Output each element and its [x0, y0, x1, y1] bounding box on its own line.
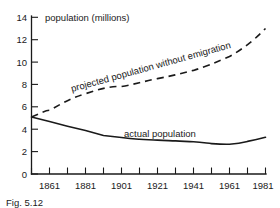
- y-tick-label-10: 10: [16, 57, 27, 68]
- y-tick-label-2: 2: [22, 146, 27, 157]
- x-tick-label-1881: 1881: [75, 180, 96, 191]
- x-tick-label-1981: 1981: [252, 180, 273, 191]
- figure-caption: Fig. 5.12: [6, 197, 43, 208]
- x-tick-label-1861: 1861: [39, 180, 60, 191]
- y-tick-label-12: 12: [16, 34, 27, 45]
- x-tick-label-1921: 1921: [147, 180, 168, 191]
- population-chart-figure: 14 12 10 8 6 4 2 0 1861 1881 1901 1921 1…: [0, 0, 280, 208]
- y-tick-label-0: 0: [22, 169, 27, 180]
- x-tick-label-1961: 1961: [219, 180, 240, 191]
- series-annotation-actual: actual population: [124, 128, 196, 139]
- y-axis-title: population (millions): [45, 12, 129, 23]
- x-tick-label-1901: 1901: [111, 180, 132, 191]
- chart-canvas: 14 12 10 8 6 4 2 0 1861 1881 1901 1921 1…: [0, 0, 280, 208]
- y-tick-label-4: 4: [22, 124, 27, 135]
- series-annotation-projected: projected population without emigration: [70, 39, 232, 94]
- y-tick-label-6: 6: [22, 101, 27, 112]
- y-tick-label-8: 8: [22, 79, 27, 90]
- y-tick-label-14: 14: [16, 12, 27, 23]
- x-tick-label-1941: 1941: [183, 180, 204, 191]
